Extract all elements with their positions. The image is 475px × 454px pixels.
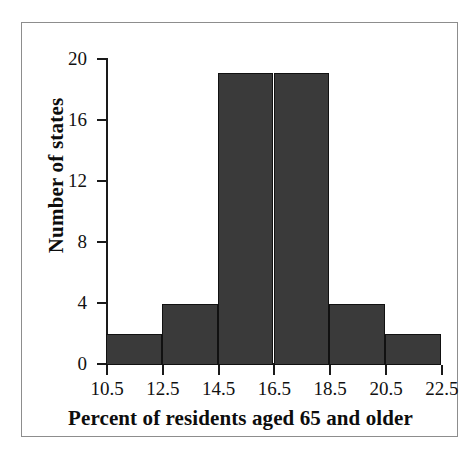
y-axis-spine: [106, 58, 108, 365]
histogram-bar: [162, 304, 218, 365]
y-axis-tick-label-0: 0: [47, 354, 87, 373]
x-axis-tick-label-16-5: 16.5: [244, 379, 304, 398]
x-axis-tick-label-12-5: 12.5: [133, 379, 193, 398]
x-axis-tick-14-5: [218, 365, 220, 375]
histogram-bar: [329, 304, 385, 365]
histogram-bar: [218, 73, 274, 365]
x-axis-tick-18-5: [329, 365, 331, 375]
y-axis-tick-20: [97, 58, 106, 60]
x-axis-tick-12-5: [162, 365, 164, 375]
histogram-bar: [106, 334, 162, 365]
x-axis-tick-label-14-5: 14.5: [189, 379, 249, 398]
y-axis-tick-12: [97, 180, 106, 182]
histogram-bar: [385, 334, 441, 365]
x-axis-tick-label-20-5: 20.5: [356, 379, 416, 398]
x-axis-title: Percent of residents aged 65 and older: [22, 406, 459, 431]
histogram-bar: [274, 73, 330, 365]
plot-area: 0 4 8 12 16 20 10.5 12.5 14.5 16.5 18.5 …: [22, 23, 459, 438]
y-axis-tick-4: [97, 302, 106, 304]
x-axis-tick-10-5: [106, 365, 108, 375]
y-axis-tick-0: [97, 363, 106, 365]
y-axis-tick-label-4: 4: [47, 293, 87, 312]
y-axis-tick-8: [97, 241, 106, 243]
figure-frame: 0 4 8 12 16 20 10.5 12.5 14.5 16.5 18.5 …: [21, 22, 458, 437]
y-axis-title: Number of states: [44, 66, 69, 286]
y-axis-tick-16: [97, 119, 106, 121]
x-axis-tick-label-10-5: 10.5: [77, 379, 137, 398]
x-axis-tick-20-5: [385, 365, 387, 375]
x-axis-tick-22-5: [441, 365, 443, 375]
x-axis-tick-16-5: [273, 365, 275, 375]
x-axis-tick-label-18-5: 18.5: [300, 379, 360, 398]
x-axis-tick-label-22-5: 22.5: [412, 379, 472, 398]
